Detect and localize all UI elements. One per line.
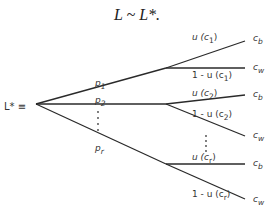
lottery-tree-diagram: L ~ L*. L* ≡ p1 p2 pr u (c1) (0, 0, 274, 214)
outcome-cb-r: cb (253, 158, 263, 171)
label-u-c1: u (c1) (192, 32, 217, 45)
label-1-u-c2: 1 - u (c2) (192, 109, 232, 122)
tree-lines (0, 0, 274, 214)
label-1-u-cr: 1 - u (cr) (192, 189, 230, 202)
outcome-cb-1: cb (253, 33, 263, 46)
label-u-c2: u (c2) (192, 88, 217, 101)
outcome-cw-2: cw (253, 130, 264, 143)
label-1-u-c1: 1 - u (c1) (192, 70, 232, 83)
root-label: L* ≡ (4, 101, 26, 112)
outcome-cw-r: cw (253, 194, 264, 207)
ellipsis-dots-main (97, 111, 99, 131)
sub-branch-u-c1 (166, 41, 245, 68)
label-u-cr: u (cr) (192, 152, 216, 165)
label-p1: p1 (95, 78, 106, 91)
outcome-cb-2: cb (253, 89, 263, 102)
outcome-cw-1: cw (253, 62, 264, 75)
label-pr: pr (95, 143, 104, 156)
ellipsis-dots-sub (205, 135, 207, 152)
label-p2: p2 (95, 95, 106, 108)
